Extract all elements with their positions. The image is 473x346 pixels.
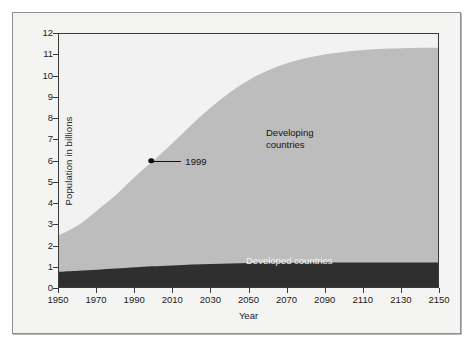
x-tick-label: 2050 — [238, 295, 259, 305]
x-tick-label: 1970 — [86, 295, 107, 305]
y-tick-mark — [53, 246, 58, 247]
x-tick-label: 2130 — [390, 295, 411, 305]
y-tick-mark — [53, 203, 58, 204]
x-tick-label: 1990 — [124, 295, 145, 305]
x-tick-label: 2090 — [314, 295, 335, 305]
y-tick-mark — [53, 224, 58, 225]
chart-figure: 0123456789101112 19501970199020102030205… — [12, 12, 461, 334]
y-tick-label: 10 — [42, 71, 53, 81]
x-tick-label: 2110 — [353, 295, 373, 305]
y-tick-label: 7 — [48, 135, 53, 145]
y-tick-mark — [53, 97, 58, 98]
annotation-leader-line-1999 — [154, 161, 181, 162]
x-tick-label: 2150 — [428, 295, 449, 305]
y-tick-label: 0 — [48, 283, 53, 293]
y-tick-mark — [53, 182, 58, 183]
x-tick-label: 2030 — [200, 295, 221, 305]
x-tick-label: 2070 — [276, 295, 297, 305]
y-tick-label: 8 — [48, 113, 53, 123]
y-tick-label: 12 — [42, 28, 53, 38]
y-tick-label: 11 — [43, 50, 53, 60]
y-tick-mark — [53, 54, 58, 55]
y-tick-mark — [53, 76, 58, 77]
y-tick-label: 2 — [48, 241, 53, 251]
stacked-area-svg — [59, 34, 439, 288]
series-area-developing — [59, 48, 439, 288]
x-tick-mark — [96, 288, 97, 293]
y-tick-mark — [53, 161, 58, 162]
x-tick-mark — [134, 288, 135, 293]
plot-wrapper: 0123456789101112 19501970199020102030205… — [58, 33, 439, 288]
y-tick-mark — [53, 267, 58, 268]
x-tick-mark — [210, 288, 211, 293]
y-axis-title: Population in billions — [63, 116, 74, 205]
x-tick-mark — [172, 288, 173, 293]
y-tick-mark — [53, 33, 58, 34]
y-tick-mark — [53, 139, 58, 140]
x-tick-mark — [58, 288, 59, 293]
y-tick-mark — [53, 118, 58, 119]
x-tick-mark — [249, 288, 250, 293]
plot-area — [58, 33, 439, 288]
y-tick-label: 9 — [48, 92, 53, 102]
x-tick-mark — [401, 288, 402, 293]
annotation-label-1999: 1999 — [185, 155, 206, 166]
x-tick-mark — [287, 288, 288, 293]
y-tick-label: 3 — [48, 220, 53, 230]
x-tick-mark — [325, 288, 326, 293]
x-tick-mark — [363, 288, 364, 293]
y-tick-label: 5 — [48, 177, 53, 187]
series-label-developed: Developed countries — [246, 255, 333, 267]
x-tick-label: 2010 — [162, 295, 183, 305]
series-label-developing: Developing countries — [266, 127, 314, 150]
y-tick-label: 4 — [48, 198, 53, 208]
x-axis-title: Year — [239, 310, 258, 321]
x-tick-label: 1950 — [47, 295, 68, 305]
y-tick-label: 1 — [48, 262, 53, 272]
x-tick-mark — [439, 288, 440, 293]
annotation-marker-1999 — [149, 158, 155, 164]
y-tick-label: 6 — [48, 156, 53, 166]
